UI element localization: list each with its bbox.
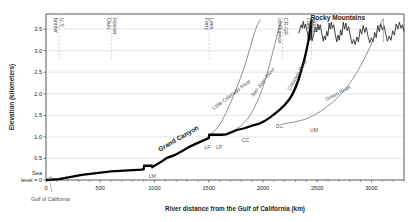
- river-name-labels: Little Colorado RiverSan Juan RiverColor…: [211, 58, 352, 111]
- river-elevation-profile-chart: 050010001500200025003000 Sealevel = 00.5…: [0, 0, 411, 222]
- top-annotation-line2: confluence: [277, 18, 283, 43]
- elevation-profile-figure: 050010001500200025003000 Sealevel = 00.5…: [0, 0, 411, 222]
- top-annotation: U.S.border: [53, 18, 65, 33]
- tributary-path: [210, 20, 260, 136]
- grid-lines: [46, 29, 404, 158]
- y-tick-label: 2.5: [34, 69, 42, 75]
- y-tick-label: 2.0: [34, 91, 42, 97]
- x-axis-title: River distance from the Gulf of Californ…: [165, 205, 305, 213]
- y-tick-label: 3.5: [34, 26, 42, 32]
- top-site-annotations: U.S.borderHooverDamLeesFerryCR-GRconflue…: [53, 18, 317, 43]
- y-axis-title: Elevation (kilometers): [8, 64, 16, 130]
- region-label: Grand Canyon: [157, 124, 200, 154]
- x-tick-label: 0: [44, 185, 47, 191]
- top-annotation: CR-GRconfluence: [277, 18, 289, 43]
- x-tick-label: 3000: [365, 185, 377, 191]
- site-marker-label: LM: [149, 173, 156, 179]
- site-marker-label: UM: [310, 127, 318, 133]
- x-tick-label: 1500: [203, 185, 215, 191]
- x-tick-label: 2000: [257, 185, 269, 191]
- x-tick-label: 2500: [311, 185, 323, 191]
- river-label: San Juan River: [249, 66, 276, 98]
- y-tick-label-sea-line2: level = 0: [21, 177, 42, 183]
- site-marker-label: CC: [242, 137, 250, 143]
- y-tick-label: 3.0: [34, 48, 42, 54]
- y-tick-label: 1.5: [34, 112, 42, 118]
- x-tick-label: 500: [96, 185, 105, 191]
- y-axis: Sealevel = 00.51.01.52.02.53.03.5: [21, 26, 46, 183]
- x-tick-label: 1000: [148, 185, 160, 191]
- top-annotation: HooverDam: [106, 18, 118, 35]
- callout-label: Gulf of California: [31, 196, 70, 202]
- river-label: Little Colorado River: [211, 78, 252, 111]
- y-tick-label: 0.5: [34, 155, 42, 161]
- top-annotation-line2: Ferry: [204, 18, 210, 31]
- site-marker-label: LF: [204, 144, 210, 150]
- site-marker-label: DC: [276, 123, 284, 129]
- region-label: Rocky Mountains: [311, 14, 366, 22]
- colorado-river-main-profile: [46, 20, 312, 180]
- callout-leader: [49, 179, 52, 192]
- x-axis: 050010001500200025003000: [44, 180, 404, 191]
- top-annotation-line2: Dam: [106, 18, 112, 29]
- y-tick-label-sea-line1: Sea: [32, 170, 43, 176]
- main-profile-path: [46, 20, 312, 180]
- top-annotation-line2: border: [53, 18, 59, 33]
- river-label: Green River: [324, 84, 352, 103]
- top-annotation: LeesFerry: [204, 18, 216, 31]
- site-marker-label: LP: [216, 144, 223, 150]
- y-tick-label: 1.0: [34, 134, 42, 140]
